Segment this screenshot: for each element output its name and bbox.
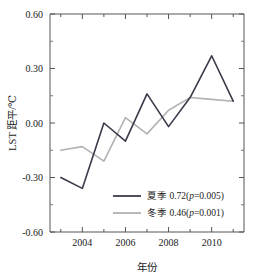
- y-tick-label: -0.30: [22, 172, 43, 183]
- y-tick-label: 0.60: [26, 9, 44, 20]
- series-line-冬季: [61, 98, 233, 162]
- chart-figure: -0.60-0.300.000.300.60 2004200620082010 …: [0, 0, 257, 280]
- series-line-夏季: [61, 56, 233, 189]
- y-tick-label: -0.60: [22, 227, 43, 238]
- legend-label-夏季: 夏季 0.72(p=0.005): [147, 190, 224, 202]
- x-tick-label: 2010: [202, 237, 222, 248]
- y-tick-label: 0.00: [26, 118, 44, 129]
- line-chart: -0.60-0.300.000.300.60 2004200620082010 …: [0, 0, 257, 280]
- y-axis-tick-labels: -0.60-0.300.000.300.60: [22, 9, 43, 238]
- y-axis-title: LST 距平/℃: [7, 95, 18, 151]
- data-series-layer: [61, 56, 233, 189]
- x-axis-tick-labels: 2004200620082010: [72, 237, 221, 248]
- legend-label-冬季: 冬季 0.46(p=0.001): [147, 207, 224, 219]
- x-axis-title: 年份: [137, 261, 158, 273]
- x-tick-label: 2008: [159, 237, 179, 248]
- x-tick-label: 2006: [115, 237, 135, 248]
- y-tick-label: 0.30: [26, 63, 44, 74]
- chart-legend: 夏季 0.72(p=0.005)冬季 0.46(p=0.001): [113, 190, 224, 219]
- x-tick-label: 2004: [72, 237, 92, 248]
